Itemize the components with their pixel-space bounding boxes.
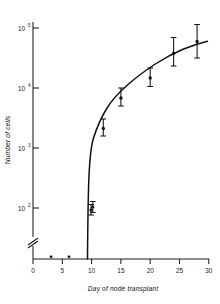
baseline-marker-day3 <box>50 256 53 258</box>
x-tick-label-25: 25 <box>176 267 184 274</box>
x-tick-label-15: 15 <box>117 267 125 274</box>
growth-curve-chart: 10 5 10 4 10 3 10 2 0 5 10 15 20 25 30 <box>0 0 220 304</box>
data-point-day20 <box>147 68 153 87</box>
data-point-day12 <box>101 119 107 136</box>
y-tick-label-1e5: 10 5 <box>18 23 31 32</box>
baseline-marker-day6 <box>68 256 71 258</box>
x-axis-title: Day of node transplant <box>88 285 159 293</box>
x-tick-label-20: 20 <box>147 267 155 274</box>
y-tick-label-1e2: 10 2 <box>18 203 31 212</box>
y-tick-exponent: 2 <box>28 203 31 208</box>
y-tick-exponent: 3 <box>28 143 31 148</box>
y-tick-label-1e4: 10 4 <box>18 83 31 92</box>
x-tick-label-0: 0 <box>31 267 35 274</box>
y-tick-exponent: 5 <box>28 23 31 28</box>
x-tick-label-10: 10 <box>88 267 96 274</box>
x-tick-label-30: 30 <box>205 267 213 274</box>
y-tick-mantissa: 10 <box>18 85 26 92</box>
data-point-day15 <box>118 88 124 106</box>
y-tick-mantissa: 10 <box>18 145 26 152</box>
x-tick-label-5: 5 <box>61 267 65 274</box>
data-point-day28 <box>194 25 200 59</box>
y-tick-mantissa: 10 <box>18 205 26 212</box>
y-tick-exponent: 4 <box>28 83 31 88</box>
y-tick-mantissa: 10 <box>18 25 26 32</box>
fitted-growth-curve <box>88 41 208 259</box>
y-axis-title: Number of cells <box>4 115 11 164</box>
y-tick-label-1e3: 10 3 <box>18 143 31 152</box>
